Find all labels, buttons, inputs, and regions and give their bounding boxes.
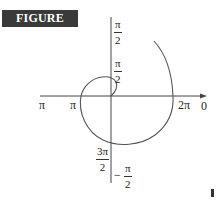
page-edge-mark: [211, 189, 214, 197]
fraction-bar: [96, 159, 109, 160]
denominator: 2: [125, 179, 131, 190]
label-two-pi: 2π: [178, 99, 190, 111]
denominator: 2: [100, 162, 106, 173]
numerator: 3π: [96, 146, 109, 157]
axis-arrow-icon: [200, 94, 207, 99]
numerator: π: [124, 163, 132, 174]
label-three-pi-over-2: 3π 2: [96, 146, 109, 173]
label-top-pi-over-2: π 2: [114, 19, 122, 46]
fraction-bar: [114, 71, 122, 72]
label-inner-pi-over-2: π 2: [114, 58, 122, 85]
label-zero: 0: [201, 100, 207, 112]
denominator: 2: [115, 35, 121, 46]
spiral-curve: [80, 41, 173, 144]
numerator: π: [114, 19, 122, 30]
label-left-pi-inner: π: [70, 99, 76, 111]
fraction-bar: [114, 32, 122, 33]
denominator: 2: [115, 74, 121, 85]
label-neg-pi-over-2: π 2: [124, 163, 132, 190]
fraction-bar: [124, 176, 132, 177]
label-neg-sign: −: [114, 168, 121, 183]
numerator: π: [114, 58, 122, 69]
label-left-pi-outer: π: [39, 99, 45, 111]
